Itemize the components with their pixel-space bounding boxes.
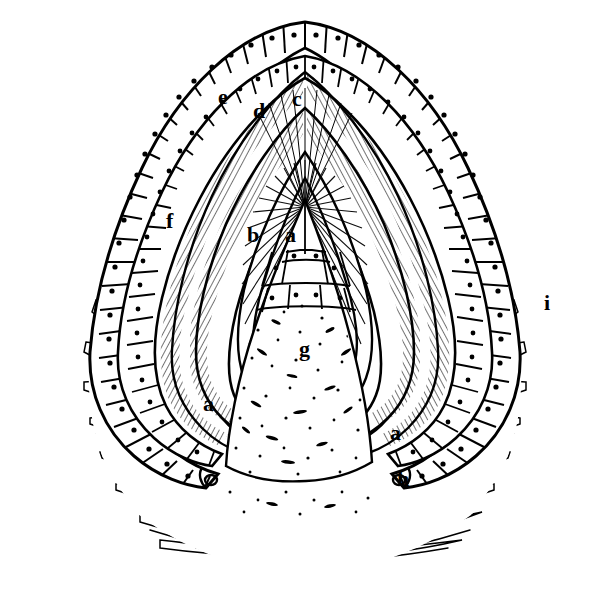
figure-illustration xyxy=(0,0,609,615)
label-h: h xyxy=(397,468,409,490)
label-a-left: a xyxy=(203,393,214,415)
label-i: i xyxy=(544,292,550,314)
label-f: f xyxy=(166,210,173,232)
label-a-right: a xyxy=(390,422,401,444)
label-d: d xyxy=(253,100,265,122)
label-g: g xyxy=(299,338,310,360)
label-b: b xyxy=(247,224,259,246)
label-c: c xyxy=(292,88,302,110)
label-e: e xyxy=(218,86,228,108)
label-a-apex: a xyxy=(285,224,296,246)
tooth-germ-figure: e d c f b a g a a h i xyxy=(0,0,609,615)
